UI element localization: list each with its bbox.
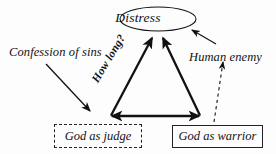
node-label-god-as-judge: God as judge [65, 129, 132, 144]
edge-confession-to-judge [46, 64, 90, 111]
node-label-god-as-warrior: God as warrior [179, 129, 257, 144]
node-label-confession-of-sins: Confession of sins [9, 46, 102, 59]
node-label-distress: Distress [0, 11, 276, 25]
node-label-human-enemy: Human enemy [189, 51, 262, 64]
node-box-god-as-warrior: God as warrior [172, 125, 263, 148]
edge-human-enemy-to-distress [192, 30, 216, 44]
edge-warrior-to-human-enemy [214, 62, 223, 122]
diagram-canvas: Distress Confession of sins Human enemy … [0, 0, 276, 154]
node-box-god-as-judge: God as judge [54, 124, 142, 148]
